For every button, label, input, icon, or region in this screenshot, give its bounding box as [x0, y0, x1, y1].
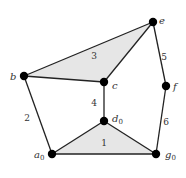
node-a0 [48, 150, 56, 158]
face-3 [24, 22, 153, 82]
node-b [20, 72, 28, 80]
node-label-e: e [159, 15, 165, 26]
edge-label-4: 4 [91, 98, 97, 108]
node-label-f: f [172, 81, 179, 92]
node-label-a0: a0 [34, 149, 44, 162]
edge-label-1: 1 [101, 138, 107, 148]
edge-label-2: 2 [24, 113, 30, 123]
node-label-d0: d0 [112, 113, 123, 126]
edge-label-3: 3 [91, 51, 97, 61]
node-f [162, 82, 170, 90]
node-g0 [152, 150, 160, 158]
node-label-b: b [10, 71, 16, 82]
node-label-c: c [112, 80, 118, 91]
graph-diagram: 354261 ebcfd0a0g0 [0, 0, 186, 178]
edge-label-5: 5 [161, 52, 167, 62]
node-d0 [100, 117, 108, 125]
edge-label-6: 6 [163, 117, 169, 127]
node-c [100, 78, 108, 86]
node-label-g0: g0 [165, 149, 176, 162]
node-e [149, 18, 157, 26]
